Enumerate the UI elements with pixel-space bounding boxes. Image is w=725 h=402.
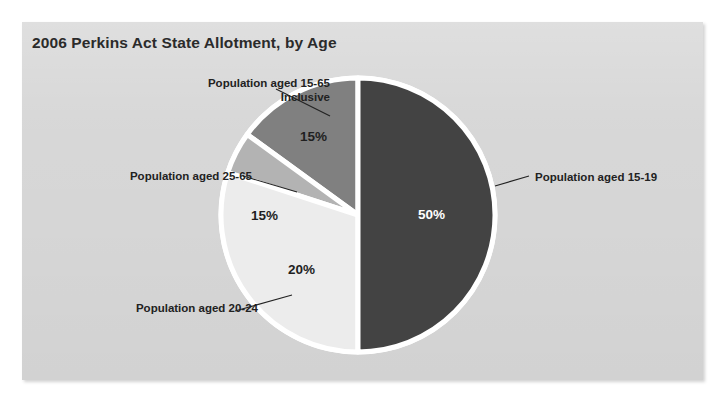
slice-value-population-aged-20-24: 20%	[288, 262, 315, 277]
slice-label-population-aged-25-65: Population aged 25-65	[62, 169, 252, 183]
slice-value-population-aged-25-65: 15%	[251, 208, 278, 223]
chart-figure: 2006 Perkins Act State Allotment, by Age…	[0, 0, 725, 402]
pie-chart	[0, 0, 725, 402]
slice-value-population-aged-15-19: 50%	[418, 207, 445, 222]
slice-label-line1: Population aged 15-19	[535, 171, 657, 183]
leader-line-15-19	[495, 176, 529, 186]
slice-label-line1: Population aged 15-65	[208, 77, 330, 89]
slice-label-population-aged-20-24: Population aged 20-24	[78, 301, 258, 315]
slice-value-population-aged-15-65-inclusive: 15%	[300, 129, 327, 144]
slice-label-line1: Population aged 25-65	[130, 170, 252, 182]
slice-label-line2: Inclusive	[150, 90, 330, 104]
slice-label-population-aged-15-19: Population aged 15-19	[535, 170, 715, 184]
slice-label-line1: Population aged 20-24	[136, 302, 258, 314]
slice-label-population-aged-15-65-inclusive: Population aged 15-65 Inclusive	[150, 76, 330, 104]
